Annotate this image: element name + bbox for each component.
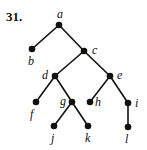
- node-e: [107, 73, 114, 80]
- node-d: [52, 73, 59, 80]
- edge-g-k: [72, 102, 88, 126]
- node-g: [69, 99, 76, 106]
- node-j: [51, 123, 58, 130]
- node-label-i: i: [135, 96, 138, 110]
- node-f: [33, 99, 40, 106]
- node-b: [29, 46, 36, 53]
- node-label-b: b: [28, 54, 34, 68]
- node-label-e: e: [117, 68, 123, 82]
- edge-a-c: [59, 25, 84, 51]
- node-label-d: d: [42, 68, 49, 82]
- node-h: [87, 99, 94, 106]
- node-label-k: k: [85, 131, 91, 145]
- node-a: [56, 22, 63, 29]
- node-label-h: h: [95, 95, 101, 109]
- node-c: [81, 48, 88, 55]
- node-label-g: g: [60, 94, 66, 108]
- node-label-c: c: [92, 43, 98, 57]
- node-label-l: l: [125, 132, 129, 146]
- edge-c-d: [55, 51, 84, 76]
- node-label-a: a: [57, 7, 63, 21]
- tree-labels: abcdefghijkl: [28, 7, 138, 146]
- node-l: [125, 124, 132, 131]
- node-label-f: f: [30, 107, 35, 121]
- node-k: [85, 123, 92, 130]
- node-label-j: j: [49, 131, 55, 145]
- tree-diagram: abcdefghijkl: [0, 0, 147, 150]
- node-i: [125, 100, 132, 107]
- edge-a-b: [32, 25, 59, 49]
